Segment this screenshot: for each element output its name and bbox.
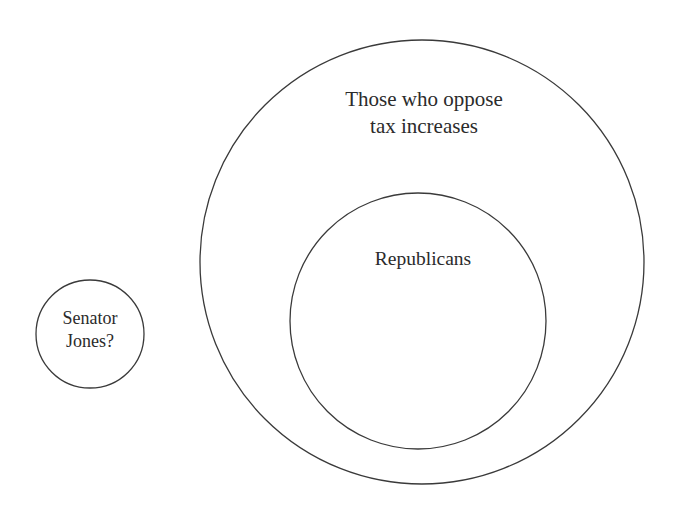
label-those-who-oppose-tax-increases: Those who oppose tax increases bbox=[274, 86, 574, 141]
diagram-canvas: Those who oppose tax increases Republica… bbox=[0, 0, 675, 523]
circle-republicans[interactable] bbox=[290, 193, 546, 449]
label-republicans: Republicans bbox=[323, 246, 523, 271]
label-senator-jones: Senator Jones? bbox=[30, 307, 150, 353]
